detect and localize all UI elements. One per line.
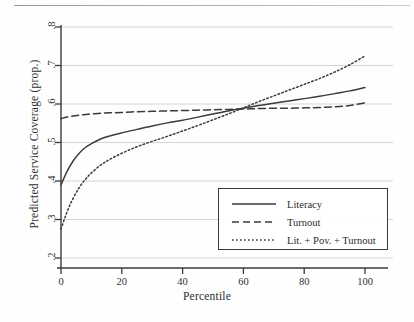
legend: LiteracyTurnoutLit. + Pov. + Turnout: [218, 188, 388, 250]
legend-item: Literacy: [219, 194, 387, 214]
legend-label: Turnout: [287, 217, 320, 228]
y-tick-label: .3: [46, 207, 57, 229]
plot-area: [0, 0, 414, 322]
x-axis-title: Percentile: [0, 290, 414, 302]
x-tick-label: 60: [228, 276, 258, 287]
x-tick-label: 100: [350, 276, 380, 287]
legend-label: Lit. + Pov. + Turnout: [287, 235, 376, 246]
x-tick-label: 20: [107, 276, 137, 287]
legend-swatch-dashed: [231, 215, 277, 229]
x-tick-label: 40: [168, 276, 198, 287]
y-tick-label: .8: [46, 15, 57, 37]
legend-swatch-solid: [231, 197, 277, 211]
x-tick-label: 80: [289, 276, 319, 287]
y-tick-label: .6: [46, 92, 57, 114]
legend-swatch-dotted: [231, 233, 277, 247]
legend-label: Literacy: [287, 199, 322, 210]
chart-figure: .2.3.4.5.6.7.8 020406080100 Predicted Se…: [0, 0, 414, 322]
y-tick-label: .4: [46, 169, 57, 191]
x-tick-label: 0: [46, 276, 76, 287]
series-line-dashed: [61, 103, 365, 119]
y-tick-label: .7: [46, 53, 57, 75]
legend-item: Turnout: [219, 212, 387, 232]
y-axis-title: Predicted Service Coverage (prop.): [28, 29, 40, 259]
legend-item: Lit. + Pov. + Turnout: [219, 230, 387, 250]
y-tick-label: .2: [46, 246, 57, 268]
series-line-solid: [61, 87, 365, 184]
y-tick-label: .5: [46, 130, 57, 152]
